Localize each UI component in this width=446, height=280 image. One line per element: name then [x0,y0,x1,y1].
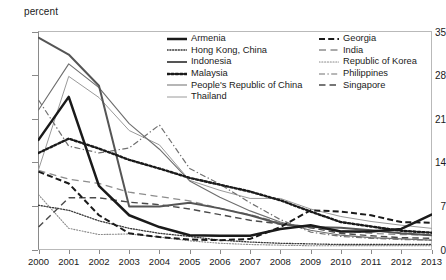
y-axis-title: percent [24,6,58,17]
x-tick-label: 2012 [391,256,412,267]
x-tick-mark [432,250,433,254]
x-tick-label: 2006 [209,256,230,267]
x-tick-label: 2013 [421,256,442,267]
legend-swatch-icon [167,57,187,67]
x-tick-mark [341,250,342,254]
x-tick-mark [69,250,70,254]
legend-item-label: Thailand [191,91,227,102]
legend-item-label: Hong Kong, China [191,45,267,56]
legend-column-right: GeorgiaIndiaRepublic of KoreaPhilippines… [319,33,429,103]
legend-item-label: Armenia [191,33,226,44]
legend-item[interactable]: Georgia [319,33,429,45]
x-tick-mark [220,250,221,254]
legend-item-label: Indonesia [191,56,231,67]
legend-item[interactable]: Philippines [319,68,429,80]
x-tick-mark [250,250,251,254]
legend-item-label: India [343,45,363,56]
x-tick-label: 2008 [270,256,291,267]
legend-item-label: Georgia [343,33,376,44]
x-tick-label: 2005 [179,256,200,267]
x-tick-label: 2002 [88,256,109,267]
line-chart: percent 0714212835 200020012002200320042… [0,0,446,280]
legend-swatch-icon [319,69,339,79]
x-tick-label: 2001 [58,256,79,267]
legend-swatch-icon [167,34,187,44]
legend-item-label: Republic of Korea [343,56,417,67]
legend-item-label: Philippines [343,68,388,79]
x-tick-label: 2011 [361,256,381,267]
x-tick-mark [129,250,130,254]
x-tick-label: 2010 [330,256,351,267]
x-tick-label: 2003 [119,256,140,267]
legend-swatch-icon [319,45,339,55]
legend-item[interactable]: Thailand [167,91,319,103]
legend-item[interactable]: Indonesia [167,56,319,68]
x-tick-mark [371,250,372,254]
x-tick-mark [159,250,160,254]
legend-item[interactable]: People's Republic of China [167,79,319,91]
legend-swatch-icon [167,80,187,90]
legend-swatch-icon [319,34,339,44]
series-line [39,139,432,233]
chart-legend: ArmeniaHong Kong, ChinaIndonesiaMalaysia… [167,33,429,103]
x-tick-mark [401,250,402,254]
legend-swatch-icon [167,69,187,79]
legend-item-label: People's Republic of China [191,80,302,91]
x-tick-mark [39,250,40,254]
x-tick-label: 2000 [28,256,49,267]
x-tick-mark [311,250,312,254]
legend-item[interactable]: Singapore [319,79,429,91]
x-tick-label: 2009 [300,256,321,267]
legend-item-label: Malaysia [191,68,228,79]
x-tick-mark [190,250,191,254]
legend-item[interactable]: Armenia [167,33,319,45]
x-tick-label: 2007 [240,256,261,267]
legend-column-left: ArmeniaHong Kong, ChinaIndonesiaMalaysia… [167,33,319,103]
x-tick-mark [99,250,100,254]
legend-item-label: Singapore [343,80,385,91]
legend-swatch-icon [319,57,339,67]
legend-item[interactable]: Hong Kong, China [167,45,319,57]
legend-item[interactable]: Republic of Korea [319,56,429,68]
x-tick-mark [280,250,281,254]
legend-swatch-icon [167,92,187,102]
series-line [39,100,432,240]
x-tick-label: 2004 [149,256,170,267]
legend-swatch-icon [319,80,339,90]
legend-swatch-icon [167,45,187,55]
legend-item[interactable]: India [319,45,429,57]
legend-item[interactable]: Malaysia [167,68,319,80]
